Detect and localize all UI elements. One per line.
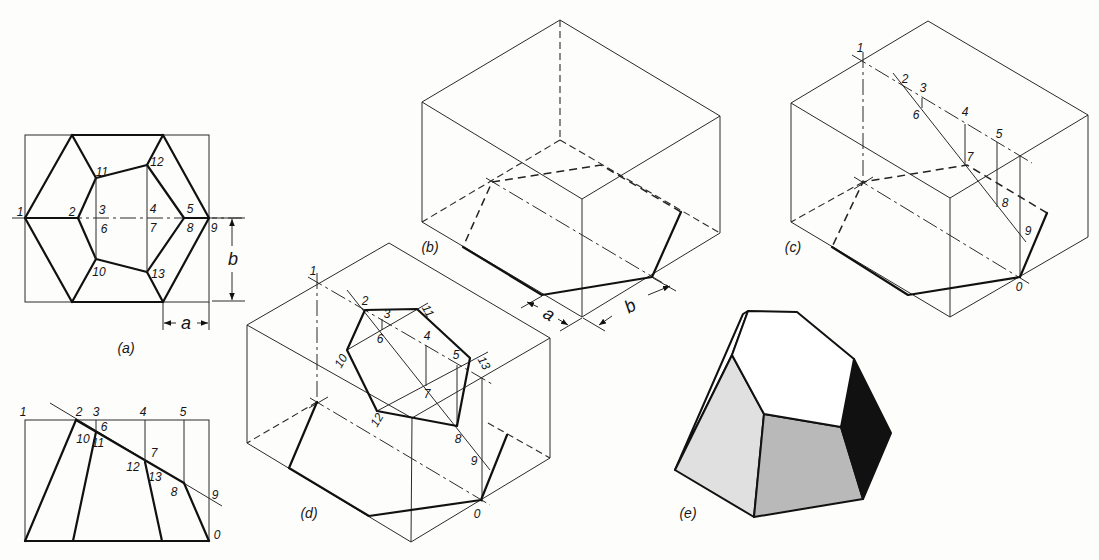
- box-edge: [422, 102, 582, 199]
- extension-line: [583, 318, 605, 331]
- point-label: 7: [150, 221, 158, 235]
- isometric-box-figure-b: a b (b): [421, 20, 720, 331]
- isometric-box-figure-c: 1 2 3 4 5 6 7 8 9 0 (c): [785, 21, 1088, 317]
- point-label: 8: [1002, 196, 1009, 210]
- lateral-edge: [184, 483, 209, 541]
- point-label: 2: [75, 405, 83, 419]
- point-label: 1: [17, 205, 24, 219]
- dimension-label-b: b: [621, 295, 640, 317]
- point-label: 1: [310, 264, 317, 278]
- point-label: 5: [453, 348, 460, 362]
- extension-line: [560, 318, 582, 331]
- point-label: 1: [857, 41, 864, 55]
- point-label: 13: [151, 267, 165, 281]
- dimension-label-a: a: [181, 313, 191, 333]
- point-label: 10: [76, 432, 90, 446]
- point-label: 6: [101, 222, 108, 236]
- point-label: 13: [475, 354, 494, 373]
- dimension-label-b: b: [228, 249, 238, 269]
- point-label: 0: [214, 528, 221, 542]
- hidden-edge: [791, 182, 863, 222]
- point-label: 4: [962, 105, 969, 119]
- point-label: 9: [1025, 224, 1032, 238]
- point-label: 5: [180, 405, 187, 419]
- hexagon-base-hidden: [832, 165, 1047, 247]
- point-label: 10: [332, 351, 351, 370]
- box-edge: [928, 21, 1088, 115]
- center-line-bottom: [310, 398, 490, 505]
- hidden-edge: [247, 402, 317, 443]
- point-label: 3: [99, 203, 106, 217]
- dimension-line-a: [558, 319, 568, 325]
- point-label: 7: [967, 150, 975, 164]
- figure-caption: (d): [300, 505, 317, 521]
- point-label: 12: [126, 460, 140, 474]
- point-label: 10: [92, 265, 106, 279]
- hexagon-base-hidden: [463, 165, 681, 247]
- top-view-figure-a: b a 1 2 3 4 5 6 7 8 9 10 11 12 13 (a): [12, 135, 245, 356]
- box-edge: [560, 20, 720, 116]
- cutting-plane-line: [347, 290, 490, 470]
- point-label: 5: [996, 127, 1003, 141]
- hexagon-base-visible: [463, 212, 681, 295]
- front-view-figure: 1 2 3 4 5 6 7 8 9 10 11 12 13 0: [20, 403, 222, 542]
- edge-2-10: [78, 218, 96, 259]
- point-label: 11: [96, 165, 108, 179]
- point-label: 5: [187, 202, 194, 216]
- dimension-line-a: [527, 302, 538, 307]
- figure-caption: (b): [421, 239, 438, 255]
- point-label: 7: [151, 446, 159, 460]
- point-label: 9: [212, 488, 219, 502]
- extension-line: [521, 296, 542, 308]
- point-label: 8: [171, 485, 178, 499]
- point-label: 1: [20, 405, 27, 419]
- point-label: 6: [101, 420, 108, 434]
- parallel-line-12-13: [377, 352, 488, 411]
- point-label: 0: [474, 507, 481, 521]
- box-edge: [582, 233, 720, 317]
- isometric-box-figure-d: 1 2 3 4 5 6 7 8 9 10 11 12 13 0 (d): [247, 243, 550, 542]
- shaded-solid-figure-e: (e): [675, 311, 891, 521]
- point-label: 11: [419, 302, 437, 320]
- point-label: 9: [471, 454, 478, 468]
- box-edge: [411, 418, 412, 542]
- edge-2-11: [78, 178, 96, 218]
- point-label: 13: [148, 470, 162, 484]
- box-edge: [247, 325, 412, 418]
- cutting-plane-line: [893, 73, 1026, 242]
- point-label: 9: [211, 221, 218, 235]
- point-label: 4: [140, 405, 147, 419]
- dimension-line-b: [648, 286, 670, 295]
- box-edge: [791, 103, 950, 198]
- point-label: 8: [187, 221, 194, 235]
- box-edge: [389, 243, 550, 338]
- center-line: [486, 178, 668, 286]
- point-label: 6: [913, 108, 920, 122]
- box-edge: [791, 222, 950, 317]
- box-edge: [582, 116, 720, 199]
- point-label: 3: [384, 307, 391, 321]
- lateral-edge: [25, 420, 76, 541]
- point-label: 2: [68, 205, 76, 219]
- hidden-edge: [488, 423, 550, 458]
- point-label: 3: [93, 405, 100, 419]
- edge-hex-to-11: [72, 135, 96, 178]
- hidden-edge: [560, 140, 720, 233]
- point-label: 3: [920, 81, 927, 95]
- isometric-section-drawing: b a 1 2 3 4 5 6 7 8 9 10 11 12 13 (a) 1: [0, 0, 1099, 560]
- dimension-line-b: [599, 316, 612, 325]
- point-label: 11: [92, 436, 104, 450]
- point-label: 7: [424, 387, 432, 401]
- figure-caption: (a): [117, 340, 134, 356]
- figure-caption: (e): [679, 505, 696, 521]
- extension-line: [653, 278, 676, 291]
- point-label: 2: [361, 294, 369, 308]
- dimension-label-a: a: [540, 303, 559, 325]
- figure-caption: (c): [785, 239, 801, 255]
- box-edge: [247, 243, 389, 325]
- box-edge: [422, 20, 560, 102]
- point-label: 4: [424, 329, 431, 343]
- point-label: 2: [901, 72, 909, 86]
- point-label: 12: [150, 155, 164, 169]
- point-label: 0: [1016, 280, 1023, 294]
